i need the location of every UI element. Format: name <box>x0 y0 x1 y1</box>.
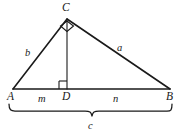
figure-canvas <box>0 0 184 134</box>
segment-label-n: n <box>113 93 118 104</box>
segment-CB-leg-a <box>67 19 170 89</box>
vertex-label-C: C <box>62 2 70 13</box>
vertex-label-A: A <box>7 91 14 102</box>
segment-label-c: c <box>88 120 93 131</box>
side-label-a: a <box>117 42 122 53</box>
vertex-label-D: D <box>62 91 70 102</box>
segment-label-m: m <box>38 93 46 104</box>
segment-AC-leg-b <box>13 19 67 89</box>
side-label-b: b <box>25 47 30 58</box>
brace-c <box>9 104 172 116</box>
vertex-label-B: B <box>166 91 173 102</box>
geometry-figure: C A D B b a m n c <box>0 0 184 134</box>
